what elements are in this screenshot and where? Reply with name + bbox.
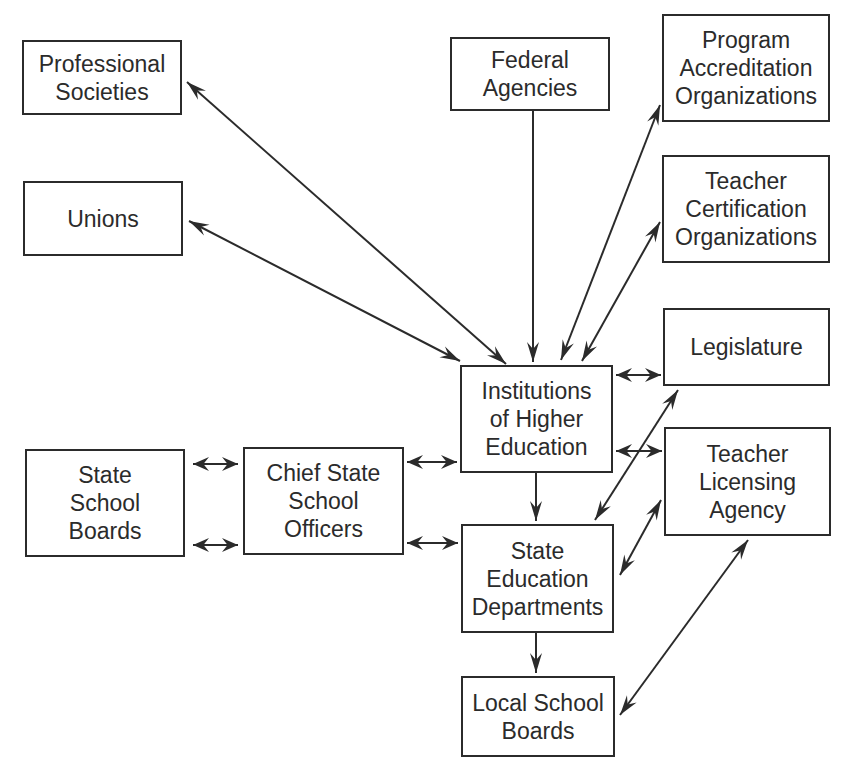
node-professional-societies: Professional Societies — [22, 40, 182, 115]
arrowhead-icon — [189, 221, 210, 236]
node-teacher-licensing-agency: Teacher Licensing Agency — [664, 427, 831, 536]
arrowhead-icon — [595, 500, 611, 520]
edge-chief-state-school-officers-to-state-education-departments — [407, 536, 458, 550]
connector-line — [189, 221, 460, 361]
edge-state-school-boards-to-chief-state-school-officers — [193, 538, 238, 552]
node-legislature: Legislature — [663, 308, 830, 386]
edge-chief-state-school-officers-to-institutions-of-higher-education — [407, 455, 457, 469]
node-label: Legislature — [690, 333, 803, 361]
node-label: State Education Departments — [472, 537, 604, 621]
edge-institutions-of-higher-education-to-unions — [189, 221, 460, 361]
education-governance-diagram: Professional SocietiesUnionsFederal Agen… — [0, 0, 856, 782]
arrowhead-icon — [645, 222, 660, 242]
connector-line — [187, 82, 506, 364]
node-label: Professional Societies — [39, 50, 166, 106]
node-federal-agencies: Federal Agencies — [450, 37, 610, 111]
arrowhead-icon — [439, 346, 460, 361]
edge-institutions-of-higher-education-to-legislature — [616, 368, 661, 382]
node-label: Chief State School Officers — [267, 459, 381, 543]
node-chief-state-school-officers: Chief State School Officers — [243, 447, 404, 555]
node-label: Federal Agencies — [483, 46, 578, 102]
edge-institutions-of-higher-education-to-teacher-certification-organizations — [582, 222, 660, 361]
node-label: State School Boards — [69, 461, 142, 545]
arrowhead-icon — [620, 555, 635, 575]
node-label: Institutions of Higher Education — [482, 377, 592, 461]
arrowhead-icon — [662, 390, 678, 410]
edge-institutions-of-higher-education-to-professional-societies — [187, 82, 506, 364]
node-label: Teacher Licensing Agency — [699, 440, 796, 524]
edge-state-school-boards-to-chief-state-school-officers — [193, 457, 238, 471]
edge-institutions-of-higher-education-to-state-education-departments — [530, 473, 542, 521]
node-local-school-boards: Local School Boards — [461, 676, 615, 757]
node-institutions-of-higher-education: Institutions of Higher Education — [460, 365, 613, 473]
node-state-education-departments: State Education Departments — [461, 524, 614, 633]
arrowhead-icon — [731, 540, 748, 560]
edge-state-education-departments-to-local-school-boards — [530, 633, 542, 673]
edge-teacher-licensing-agency-to-local-school-boards — [620, 540, 748, 715]
connector-line — [620, 540, 748, 715]
arrowhead-icon — [620, 695, 637, 715]
node-label: Program Accreditation Organizations — [675, 26, 817, 110]
edge-teacher-licensing-agency-to-state-education-departments — [620, 500, 661, 575]
node-label: Local School Boards — [472, 689, 604, 745]
node-label: Teacher Certification Organizations — [675, 167, 817, 251]
connector-line — [561, 105, 660, 360]
node-teacher-certification-organizations: Teacher Certification Organizations — [662, 155, 830, 263]
connector-line — [582, 222, 660, 361]
edge-institutions-of-higher-education-to-program-accreditation-organizations — [561, 105, 660, 360]
arrowhead-icon — [646, 500, 661, 520]
arrowhead-icon — [582, 341, 597, 361]
node-state-school-boards: State School Boards — [25, 449, 185, 557]
edge-federal-agencies-to-institutions-of-higher-education — [527, 111, 539, 362]
node-label: Unions — [67, 205, 139, 233]
node-unions: Unions — [23, 181, 183, 256]
node-program-accreditation-organizations: Program Accreditation Organizations — [662, 14, 830, 122]
